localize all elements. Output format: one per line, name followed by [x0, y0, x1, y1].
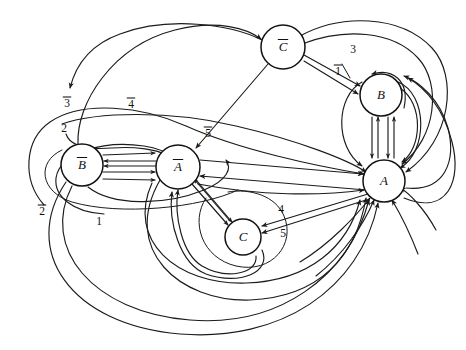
- edge-bbar-to-abar-p1: [103, 153, 155, 155]
- edge-label-text-lbl-4: 4: [278, 203, 284, 215]
- edge-bbar-to-a-outer-1: [49, 182, 378, 335]
- nodes-layer: CBABAC: [61, 25, 405, 255]
- edge-label-text-lbl-1: 1: [96, 215, 102, 227]
- abar-a-group: [198, 160, 366, 194]
- node-c[interactable]: C: [225, 219, 261, 255]
- node-label-abar: A: [173, 159, 182, 174]
- node-b[interactable]: B: [360, 74, 402, 116]
- edge-label-lbl-2bar: 2: [38, 205, 46, 217]
- edge-bbar-to-cbar-3bar: [78, 25, 261, 144]
- edge-label-text-lbl-5bar: 5: [205, 127, 211, 139]
- edge-pair-tick-mark: [342, 64, 350, 78]
- edge-label-text-lbl-1bar: 1: [335, 65, 341, 77]
- edge-label-lbl-1: 1: [96, 215, 102, 227]
- node-abar[interactable]: A: [156, 145, 200, 189]
- node-label-c: C: [239, 229, 248, 244]
- node-label-b: B: [377, 87, 385, 102]
- edge-a-to-abar-lower: [200, 176, 366, 190]
- edge-label-lbl-2: 2: [61, 122, 67, 134]
- edge-label-lbl-3: 3: [350, 43, 356, 55]
- edge-labels-layer: 3425213145: [38, 43, 356, 239]
- node-label-bbar: B: [78, 157, 86, 172]
- edge-label-text-lbl-2: 2: [61, 122, 67, 134]
- edge-label-lbl-5bar: 5: [204, 127, 212, 139]
- graph-canvas: CBABAC 3425213145: [0, 0, 466, 350]
- node-label-cbar: C: [279, 39, 288, 54]
- edge-label-lbl-5: 5: [280, 227, 286, 239]
- edge-abar-to-c-p1: [192, 184, 228, 225]
- edge-label-text-lbl-2bar: 2: [39, 205, 45, 217]
- edge-top-sweep-to-cbar: [70, 24, 262, 88]
- edge-label-text-lbl-5: 5: [280, 227, 286, 239]
- edge-bbar-to-abar-4bar: [62, 115, 366, 173]
- edge-label-text-lbl-3: 3: [350, 43, 356, 55]
- edge-fan-into-a-3: [392, 200, 418, 254]
- edge-abar-to-a-upper: [200, 160, 363, 174]
- edge-label-lbl-4: 4: [278, 203, 284, 215]
- node-label-a: A: [379, 173, 388, 188]
- node-a[interactable]: A: [363, 160, 405, 202]
- edge-cbar-to-b-3: [304, 55, 360, 86]
- edge-label-lbl-4bar: 4: [127, 98, 135, 110]
- edge-label-text-lbl-3bar: 3: [64, 97, 70, 109]
- edge-b-a-left-loop: [342, 82, 362, 166]
- edge-label-lbl-3bar: 3: [63, 97, 71, 109]
- edge-label-text-lbl-4bar: 4: [128, 98, 134, 110]
- edge-bbar-to-a-outer-2: [63, 186, 369, 321]
- node-cbar[interactable]: C: [261, 25, 305, 69]
- outer-arc-group: [49, 180, 378, 335]
- edge-bbar-to-abar-p3: [103, 179, 155, 180]
- node-bbar[interactable]: B: [61, 144, 103, 186]
- bbar-abar-bundle: [103, 153, 156, 180]
- edge-abar-to-a-mid: [198, 184, 364, 194]
- graph-diagram: CBABAC 3425213145: [0, 0, 466, 350]
